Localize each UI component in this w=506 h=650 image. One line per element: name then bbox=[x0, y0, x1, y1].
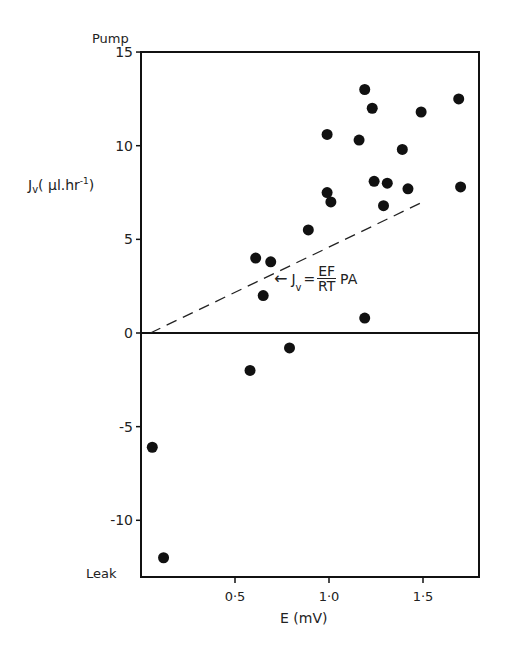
scatter-chart: 151050-5-100·51·01·5 bbox=[0, 0, 506, 650]
eq-equals: = bbox=[303, 271, 315, 287]
data-point bbox=[359, 313, 370, 324]
y-tick-label: -5 bbox=[119, 419, 133, 435]
data-point bbox=[354, 135, 365, 146]
data-point bbox=[158, 552, 169, 563]
y-top-label: Pump bbox=[92, 31, 129, 46]
y-tick-label: 15 bbox=[115, 44, 133, 60]
data-point bbox=[303, 224, 314, 235]
equation-annotation: ← Jv = EF RT PA bbox=[274, 264, 357, 293]
data-point bbox=[245, 365, 256, 376]
data-point bbox=[359, 84, 370, 95]
eq-numerator: EF bbox=[317, 264, 336, 279]
x-axis-label: E (mV) bbox=[280, 610, 327, 626]
data-point bbox=[258, 290, 269, 301]
data-point bbox=[416, 106, 427, 117]
data-point bbox=[402, 183, 413, 194]
eq-denominator: RT bbox=[318, 279, 335, 293]
data-point bbox=[453, 93, 464, 104]
data-point bbox=[250, 253, 261, 264]
eq-sub: v bbox=[296, 282, 302, 293]
y-bottom-label: Leak bbox=[86, 566, 117, 581]
data-point bbox=[325, 196, 336, 207]
y-tick-label: 10 bbox=[115, 138, 133, 154]
data-point bbox=[284, 342, 295, 353]
data-point bbox=[367, 103, 378, 114]
y-tick-label: 5 bbox=[124, 231, 133, 247]
data-point bbox=[382, 178, 393, 189]
data-point bbox=[369, 176, 380, 187]
arrow-left-icon: ← bbox=[274, 269, 287, 288]
eq-fraction: EF RT bbox=[317, 264, 336, 293]
data-point bbox=[378, 200, 389, 211]
x-tick-label: 1·0 bbox=[319, 589, 340, 604]
plot-frame bbox=[141, 52, 479, 577]
data-point bbox=[455, 181, 466, 192]
y-axis-label: Jv( µl.hr-1) bbox=[28, 176, 94, 195]
y-tick-label: 0 bbox=[124, 325, 133, 341]
data-point bbox=[147, 442, 158, 453]
x-tick-label: 0·5 bbox=[225, 589, 246, 604]
eq-rhs: PA bbox=[340, 271, 357, 287]
y-tick-label: -10 bbox=[110, 512, 133, 528]
data-point bbox=[322, 129, 333, 140]
data-point bbox=[322, 187, 333, 198]
data-point bbox=[397, 144, 408, 155]
x-tick-label: 1·5 bbox=[413, 589, 434, 604]
